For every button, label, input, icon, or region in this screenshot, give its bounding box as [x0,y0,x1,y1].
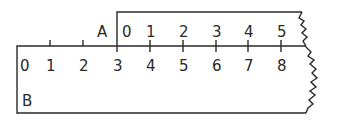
ruler-b-tick-label: 1 [46,57,56,75]
ruler-b-labels: 0 1 2 3 4 5 6 7 8 B [20,57,287,110]
ruler-a-tick-label: 4 [244,23,254,41]
ruler-b-tick-label: 8 [277,57,287,75]
ruler-b-tick-label: 5 [179,57,189,75]
ruler-a-tick-label: 0 [122,23,132,41]
ruler-b-tick-label: 2 [79,57,89,75]
ruler-b-tick-label: 0 [20,57,30,75]
torn-edge-a [299,12,307,46]
ruler-a-name: A [97,23,108,41]
ruler-a-tick-label: 1 [146,23,156,41]
ruler-diagram: A 0 1 2 3 4 5 0 1 2 3 4 5 6 7 8 B [0,0,345,125]
ruler-a-tick-label: 2 [179,23,189,41]
ruler-b-name: B [22,92,32,110]
ruler-b-tick-label: 7 [244,57,254,75]
torn-edge-b [305,46,317,113]
ruler-b-tick-label: 3 [113,57,123,75]
ruler-a-labels: A 0 1 2 3 4 5 [97,23,287,41]
ruler-b [17,46,317,113]
ruler-b-tick-label: 6 [212,57,222,75]
ruler-b-tick-label: 4 [146,57,156,75]
ruler-a-tick-label: 3 [212,23,222,41]
ruler-a-tick-label: 5 [277,23,287,41]
